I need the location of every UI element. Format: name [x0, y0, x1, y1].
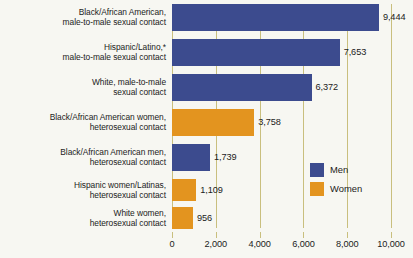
plot-area: 9,4447,6536,3723,7581,7391,109956 [172, 0, 413, 232]
category-label: Hispanic women/Latinas, heterosexual con… [0, 180, 166, 201]
x-tick-mark [391, 232, 392, 238]
x-tick-label: 6,000 [292, 239, 315, 249]
category-label-column: Black/African American, male-to-male sex… [0, 0, 170, 232]
x-tick-label: 4,000 [248, 239, 271, 249]
category-label: White, male-to-male sexual contact [0, 77, 166, 98]
bar-value-label: 6,372 [316, 74, 339, 101]
legend-swatch-women [310, 182, 324, 196]
bar-value-label: 1,739 [214, 144, 237, 171]
x-tick-mark [347, 232, 348, 238]
category-label: Black/African American, male-to-male sex… [0, 7, 166, 28]
category-label: White women, heterosexual contact [0, 208, 166, 229]
bar-men[interactable] [172, 144, 210, 171]
x-tick-mark [216, 232, 217, 238]
legend-swatch-men [310, 163, 324, 177]
x-tick-mark [303, 232, 304, 238]
bar-value-label: 1,109 [200, 179, 223, 201]
bar-value-label: 956 [197, 207, 212, 229]
x-tick-label: 0 [169, 239, 174, 249]
x-tick-label: 8,000 [336, 239, 359, 249]
x-tick-mark [172, 232, 173, 238]
legend-label: Women [330, 183, 362, 194]
bar-value-label: 7,653 [344, 39, 367, 66]
gridline [303, 4, 304, 228]
x-tick-label: 10,000 [377, 239, 405, 249]
legend-item-men[interactable]: Men [310, 160, 362, 179]
bar-men[interactable] [172, 74, 312, 101]
legend-item-women[interactable]: Women [310, 179, 362, 198]
bar-chart: Black/African American, male-to-male sex… [0, 0, 413, 258]
category-label: Black/African American men, heterosexual… [0, 147, 166, 168]
bar-women[interactable] [172, 179, 196, 201]
bar-value-label: 9,444 [383, 4, 406, 31]
bar-value-label: 3,758 [258, 109, 281, 136]
bar-men[interactable] [172, 4, 379, 31]
bar-men[interactable] [172, 39, 340, 66]
legend: MenWomen [310, 160, 362, 198]
gridline [391, 4, 392, 228]
legend-label: Men [330, 164, 348, 175]
x-tick-mark [260, 232, 261, 238]
x-tick-label: 2,000 [205, 239, 228, 249]
bar-women[interactable] [172, 109, 254, 136]
category-label: Black/African American women, heterosexu… [0, 112, 166, 133]
category-label: Hispanic/Latino,* male-to-male sexual co… [0, 42, 166, 63]
x-axis: 02,0004,0006,0008,00010,000 [172, 232, 413, 258]
bar-women[interactable] [172, 207, 193, 229]
